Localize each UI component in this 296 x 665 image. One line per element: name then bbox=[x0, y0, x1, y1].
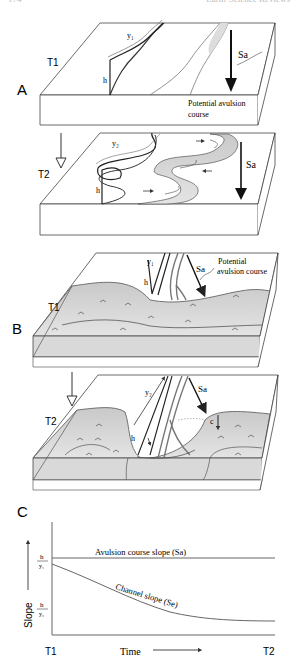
tick-h1-num: h bbox=[40, 553, 44, 561]
panel-a-t1-block bbox=[40, 20, 275, 125]
panel-a-t1-time-label: T1 bbox=[47, 57, 59, 68]
panel-b-t1-annotation-1: Potential bbox=[218, 257, 247, 266]
panel-a-t1-annotation-2: course bbox=[188, 110, 209, 119]
tick-h1-den: y₁ bbox=[39, 563, 44, 569]
se-series-label: Channel slope (Se) bbox=[114, 581, 179, 610]
panel-b-t2-crevasse-label: c bbox=[210, 417, 214, 426]
panel-a-t2-block bbox=[40, 133, 275, 235]
tick-h2-den: y₂ bbox=[39, 611, 44, 617]
panel-a-t2-length-label: y₂ bbox=[112, 139, 119, 148]
panel-b-t1-height-label: h bbox=[144, 278, 148, 287]
panel-b-t1-time-label: T1 bbox=[48, 302, 60, 313]
se-curve bbox=[52, 564, 275, 621]
panel-a-t1-slope-label: Sa bbox=[238, 49, 249, 60]
y-axis-label: Slope bbox=[23, 602, 34, 628]
time-arrow-a bbox=[56, 133, 66, 168]
panel-b-t2-length-label: y₂ bbox=[145, 388, 152, 397]
panel-b-t1-annotation-2: avulsion course bbox=[217, 267, 267, 276]
panel-a-t1-length-label: y₁ bbox=[127, 31, 134, 40]
panel-a-t2-slope-label: Sa bbox=[246, 159, 257, 170]
x-end-label: T2 bbox=[263, 646, 275, 657]
panel-b-t1-length-label: y₁ bbox=[147, 257, 154, 266]
panel-b-t2-block bbox=[33, 375, 278, 490]
panel-c-label: C bbox=[17, 503, 28, 520]
figure-canvas: A T1 y₁ h Sa Potential avulsion course T… bbox=[0, 0, 296, 665]
panel-b-t2-slope-label: Sa bbox=[198, 384, 207, 394]
panel-a-t1-annotation-1: Potential avulsion bbox=[188, 99, 246, 108]
panel-a-label: A bbox=[17, 81, 27, 98]
sa-series-label: Avulsion course slope (Sa) bbox=[95, 547, 186, 557]
panel-a-t2-time-label: T2 bbox=[38, 169, 50, 180]
panel-a-t2-height-label: h bbox=[96, 186, 100, 195]
x-start-label: T1 bbox=[45, 646, 57, 657]
tick-h2-num: h bbox=[40, 601, 44, 609]
panel-a-t1-height-label: h bbox=[103, 76, 107, 85]
time-arrow-b bbox=[67, 372, 77, 406]
panel-b-t2-time-label: T2 bbox=[45, 416, 57, 427]
panel-b-t1-slope-label: Sa bbox=[196, 264, 205, 274]
panel-b-label: B bbox=[12, 320, 22, 337]
x-axis-label: Time bbox=[120, 646, 141, 657]
slope-chart bbox=[28, 522, 275, 650]
panel-b-t2-height-label: h bbox=[131, 434, 135, 443]
